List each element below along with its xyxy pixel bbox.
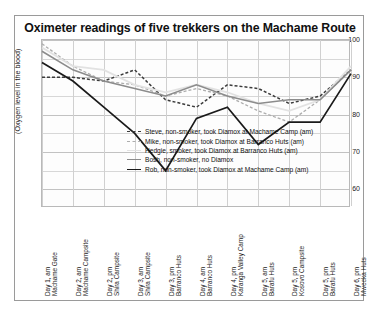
series-line: [42, 44, 351, 122]
chart-title: Oximeter readings of five trekkers on th…: [15, 21, 365, 35]
legend-label: Steve, non-smoker, took Diamox at Macham…: [145, 128, 313, 135]
legend-swatch-icon: [127, 150, 141, 151]
legend-item[interactable]: Rob, non-smoker, took Diamox at Machame …: [127, 165, 343, 174]
x-axis-tick-labels: Day 1, amMachame GateDay 2, amMachame Ca…: [41, 208, 350, 300]
x-tick-label: Day 4, pmKaranga Valley Camp: [230, 208, 245, 296]
legend-swatch-icon: [127, 159, 141, 160]
x-tick-label: Day 2, amMachame Campsite: [75, 208, 90, 296]
gridline-x: [351, 40, 352, 206]
legend-label: Rob, non-smoker, took Diamox at Machame …: [145, 166, 308, 173]
x-tick-label: Day 6, pmMweeka Huts: [353, 208, 368, 296]
chart-legend: Steve, non-smoker, took Diamox at Macham…: [127, 126, 343, 175]
plot-area: [41, 39, 350, 207]
legend-swatch-icon: [127, 141, 141, 142]
legend-swatch-icon: [127, 131, 141, 132]
legend-label: Mike, non-smoker, took Diamox at Barranc…: [145, 138, 304, 145]
x-tick-label: Day 2, pmShira Campsite: [106, 208, 121, 296]
x-tick-label: Day 5, amBarafu Huts: [261, 208, 276, 296]
x-tick-label: Day 4, amBarranco Huts: [199, 208, 214, 296]
x-tick-label: Day 1, amMachame Gate: [44, 208, 59, 296]
legend-item[interactable]: Hedgie, smoker, took Diamox at Barranco …: [127, 146, 343, 155]
legend-item[interactable]: Steve, non-smoker, took Diamox at Macham…: [127, 127, 343, 136]
legend-label: Hedgie, smoker, took Diamox at Barranco …: [145, 147, 298, 154]
legend-item[interactable]: Mike, non-smoker, took Diamox at Barranc…: [127, 136, 343, 145]
series-line: [42, 51, 351, 103]
chart-panel: Oximeter readings of five trekkers on th…: [14, 15, 364, 301]
legend-label: Bosh, non-smoker, no Diamox: [145, 156, 233, 163]
x-tick-label: Day 5, pmBarafu Huts: [322, 208, 337, 296]
x-tick-label: Day 5, pmKosovo Campsite: [291, 208, 306, 296]
x-tick-label: Day 3, amShira Campsite: [137, 208, 152, 296]
legend-swatch-icon: [127, 169, 141, 170]
x-tick-label: Day 3, pmBarranco Huts: [168, 208, 183, 296]
legend-item[interactable]: Bosh, non-smoker, no Diamox: [127, 155, 343, 164]
y-axis-title: (Oxygen level in the blood): [13, 49, 22, 135]
series-lines: [42, 40, 351, 208]
